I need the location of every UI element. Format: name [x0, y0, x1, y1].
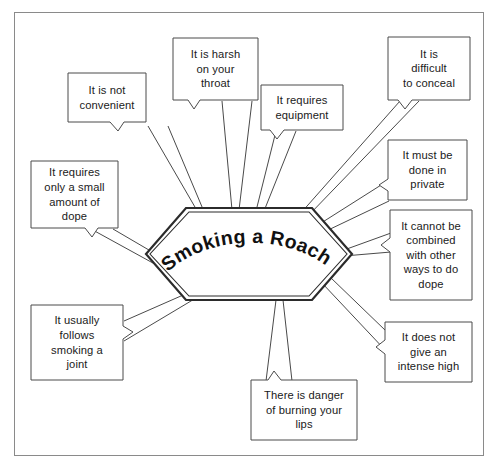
- callout-text-not-convenient: It is not convenient: [79, 83, 134, 112]
- callout-done-in-private[interactable]: It must be done in private: [388, 140, 467, 200]
- callout-harsh-throat[interactable]: It is harsh on your throat: [173, 38, 258, 100]
- callout-text-small-amount-dope: It requires only a small amount of dope: [44, 165, 104, 223]
- callout-not-convenient[interactable]: It is not convenient: [68, 73, 146, 122]
- callout-cannot-combine[interactable]: It cannot be combined with other ways to…: [390, 210, 472, 300]
- callout-text-follows-joint: It usually follows smoking a joint: [51, 313, 103, 371]
- callout-text-difficult-conceal: It is difficult to conceal: [403, 47, 455, 91]
- callout-text-requires-equipment: It requires equipment: [275, 93, 328, 122]
- callout-requires-equipment[interactable]: It requires equipment: [261, 85, 343, 130]
- callout-not-intense-high[interactable]: It does not give an intense high: [385, 322, 472, 382]
- callout-danger-burn-lips[interactable]: There is danger of burning your lips: [251, 380, 357, 440]
- center-hexagon: [146, 208, 352, 300]
- callout-text-not-intense-high: It does not give an intense high: [398, 330, 460, 374]
- callout-text-cannot-combine: It cannot be combined with other ways to…: [401, 219, 461, 292]
- diagram-canvas: It is not convenient It is harsh on your…: [0, 0, 500, 468]
- callout-follows-joint[interactable]: It usually follows smoking a joint: [31, 305, 123, 380]
- callout-small-amount-dope[interactable]: It requires only a small amount of dope: [31, 161, 118, 228]
- callout-difficult-conceal[interactable]: It is difficult to conceal: [388, 37, 470, 100]
- callout-text-done-in-private: It must be done in private: [402, 148, 452, 192]
- callout-text-harsh-throat: It is harsh on your throat: [191, 47, 241, 91]
- callout-text-danger-burn-lips: There is danger of burning your lips: [264, 388, 344, 432]
